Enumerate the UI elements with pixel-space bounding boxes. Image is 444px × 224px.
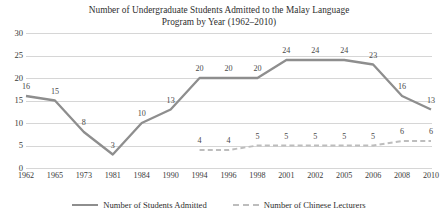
data-label: 20 [244,65,270,73]
gridline [26,168,432,169]
data-label: 4 [187,137,213,145]
y-tick-label: 20 [1,74,23,83]
x-tick-label: 2010 [416,171,444,181]
x-tick-label: 1984 [127,171,157,181]
x-tick-label: 1962 [11,171,41,181]
y-tick-label: 25 [1,51,23,60]
x-tick-label: 2002 [300,171,330,181]
legend-line-dashed-icon [233,204,259,206]
data-label: 10 [129,110,155,118]
x-tick-label: 1996 [214,171,244,181]
y-tick-label: 10 [1,119,23,128]
chart-legend: Number of Students Admitted Number of Ch… [0,196,438,214]
y-axis: 051015202530 [0,33,23,168]
legend-entry-students[interactable]: Number of Students Admitted [72,201,206,210]
chart-title-line-2: Program by Year (1962–2010) [0,16,438,28]
data-label: 3 [100,142,126,150]
x-tick-label: 1981 [98,171,128,181]
data-label: 15 [42,88,68,96]
x-tick-label: 2008 [387,171,417,181]
chart-title: Number of Undergraduate Students Admitte… [0,4,438,29]
x-tick-label: 1994 [185,171,215,181]
x-tick-label: 1998 [242,171,272,181]
legend-label-students: Number of Students Admitted [103,201,206,210]
data-label: 24 [331,47,357,55]
y-tick-label: 15 [1,96,23,105]
data-label: 23 [360,52,386,60]
data-label: 16 [13,83,39,91]
data-label: 16 [389,83,415,91]
data-label: 5 [302,133,328,141]
x-tick-label: 1990 [156,171,186,181]
plot-area: 1615831013202020242424231613445555566 [26,33,432,168]
y-tick-label: 30 [1,29,23,38]
data-label: 13 [158,97,184,105]
data-label: 5 [273,133,299,141]
chart-title-line-1: Number of Undergraduate Students Admitte… [0,4,438,16]
legend-line-solid-icon [72,204,98,206]
x-tick-label: 2001 [271,171,301,181]
data-label: 20 [216,65,242,73]
data-label: 6 [389,128,415,136]
data-label: 5 [244,133,270,141]
y-tick-label: 5 [1,141,23,150]
legend-entry-lecturers[interactable]: Number of Chinese Lecturers [233,201,366,210]
x-tick-label: 1973 [69,171,99,181]
x-axis: 1962196519731981198419901994199619982001… [26,171,432,185]
x-tick-label: 1965 [40,171,70,181]
data-label: 6 [418,128,444,136]
x-tick-label: 2005 [329,171,359,181]
data-label: 4 [216,137,242,145]
data-label: 5 [331,133,357,141]
data-label: 13 [418,97,444,105]
data-label: 24 [273,47,299,55]
data-label: 20 [187,65,213,73]
data-label: 5 [360,133,386,141]
data-label: 8 [71,119,97,127]
legend-label-lecturers: Number of Chinese Lecturers [264,201,366,210]
x-tick-label: 2006 [358,171,388,181]
data-label: 24 [302,47,328,55]
